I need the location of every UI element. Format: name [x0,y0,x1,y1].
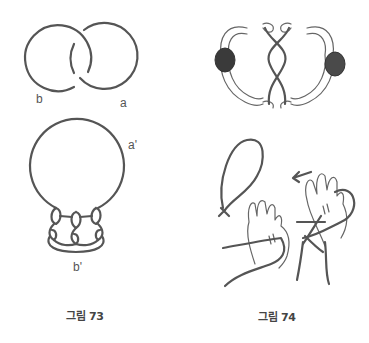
people-drawing [185,0,369,112]
label-a-prime: a' [128,138,137,152]
right-head-icon [325,52,345,76]
figure74-caption: 그림 74 [258,308,296,324]
hands-drawing [185,112,369,290]
figure73-loop-knots: a' b' [0,100,185,275]
rings-drawing [0,0,185,100]
figure74-people-twisting [185,0,369,112]
figure73-caption: 그림 73 [66,307,104,323]
figure73-interlocking-rings: b a [0,0,185,100]
loop-knots-drawing [0,100,185,275]
figure74-hands-string [185,112,369,290]
label-b-prime: b' [73,260,82,274]
left-head-icon [215,48,235,72]
